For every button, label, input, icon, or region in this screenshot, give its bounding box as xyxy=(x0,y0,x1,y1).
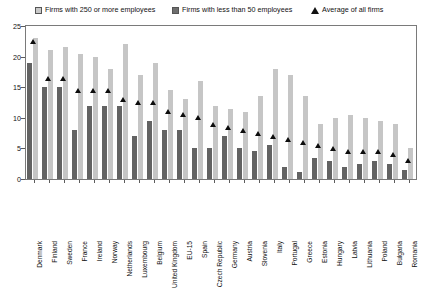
bar-group xyxy=(312,26,326,179)
average-marker-icon xyxy=(30,39,36,44)
average-marker-icon xyxy=(195,115,201,120)
bar-small-firms xyxy=(87,106,92,179)
bar-group xyxy=(267,26,281,179)
x-axis-tick-mark xyxy=(49,180,50,183)
chart-legend: Firms with 250 or more employees Firms w… xyxy=(0,4,425,16)
average-marker-icon xyxy=(330,146,336,151)
bar-group xyxy=(387,26,401,179)
square-light-gray-icon xyxy=(35,7,42,14)
bar-group xyxy=(57,26,71,179)
bar-big-firms xyxy=(78,54,83,179)
x-axis-tick-mark xyxy=(259,180,260,183)
bar-group xyxy=(192,26,206,179)
x-axis-label: Netherlands xyxy=(126,241,133,277)
x-axis-label: Germany xyxy=(231,241,238,268)
bar-small-firms xyxy=(297,172,302,179)
y-axis-tick-label: 25 xyxy=(13,23,21,30)
x-axis-label: Belgium xyxy=(156,241,163,265)
legend-label-big-firms: Firms with 250 or more employees xyxy=(45,6,155,14)
x-axis-label: Luxembourg xyxy=(141,241,148,278)
bar-group xyxy=(162,26,176,179)
x-axis-tick-mark xyxy=(274,180,275,183)
bar-group xyxy=(207,26,221,179)
average-marker-icon xyxy=(165,109,171,114)
x-axis-tick-mark xyxy=(319,180,320,183)
bar-small-firms xyxy=(192,148,197,179)
bar-small-firms xyxy=(372,161,377,179)
bar-big-firms xyxy=(123,44,128,179)
bar-small-firms xyxy=(147,121,152,179)
x-axis-labels: DenmarkFinlandSwedenFranceIrelandNorwayN… xyxy=(25,181,417,243)
bar-group xyxy=(147,26,161,179)
bar-small-firms xyxy=(42,87,47,179)
x-axis-tick-mark xyxy=(34,180,35,183)
bar-group xyxy=(327,26,341,179)
bar-small-firms xyxy=(177,130,182,179)
triangle-up-icon xyxy=(311,7,319,14)
x-axis-tick-mark xyxy=(199,180,200,183)
x-axis-tick-mark xyxy=(244,180,245,183)
x-axis-tick-mark xyxy=(109,180,110,183)
average-marker-icon xyxy=(255,131,261,136)
bar-small-firms xyxy=(102,106,107,179)
x-axis-tick-mark xyxy=(124,180,125,183)
average-marker-icon xyxy=(240,128,246,133)
bar-small-firms xyxy=(267,145,272,179)
average-marker-icon xyxy=(285,137,291,142)
x-axis-tick-mark xyxy=(229,180,230,183)
bar-group xyxy=(132,26,146,179)
bar-big-firms xyxy=(168,90,173,179)
bar-group xyxy=(27,26,41,179)
bar-big-firms xyxy=(48,50,53,179)
bar-group xyxy=(42,26,56,179)
bar-small-firms xyxy=(132,136,137,179)
bar-small-firms xyxy=(402,170,407,179)
bar-big-firms xyxy=(318,124,323,179)
x-axis-label: Poland xyxy=(381,241,388,262)
bar-small-firms xyxy=(327,161,332,179)
x-axis-label: Romania xyxy=(411,241,418,267)
bar-big-firms xyxy=(288,75,293,179)
bar-big-firms xyxy=(228,109,233,179)
bar-small-firms xyxy=(207,148,212,179)
x-axis-label: Lithuania xyxy=(366,241,373,268)
bar-group xyxy=(117,26,131,179)
average-marker-icon xyxy=(270,134,276,139)
x-axis-tick-mark xyxy=(379,180,380,183)
bar-big-firms xyxy=(348,115,353,179)
x-axis-label: Sweden xyxy=(66,241,73,265)
x-axis-tick-mark xyxy=(154,180,155,183)
plot-area xyxy=(25,25,417,180)
bar-big-firms xyxy=(303,96,308,179)
x-axis-tick-mark xyxy=(184,180,185,183)
x-axis-label: Portugal xyxy=(291,241,298,266)
average-marker-icon xyxy=(225,125,231,130)
x-axis-label: Latvia xyxy=(351,241,358,259)
average-marker-icon xyxy=(150,100,156,105)
legend-label-small-firms: Firms with less than 50 employees xyxy=(182,6,292,14)
bar-small-firms xyxy=(237,148,242,179)
average-marker-icon xyxy=(345,149,351,154)
bar-group xyxy=(237,26,251,179)
average-marker-icon xyxy=(75,88,81,93)
bar-big-firms xyxy=(198,81,203,179)
y-axis-tick-label: 15 xyxy=(13,84,21,91)
average-marker-icon xyxy=(105,88,111,93)
bar-group xyxy=(282,26,296,179)
legend-item-average: Average of all firms xyxy=(311,4,383,16)
average-marker-icon xyxy=(120,97,126,102)
x-axis-label: Bulgaria xyxy=(396,241,403,265)
bar-big-firms xyxy=(63,47,68,179)
legend-item-big-firms: Firms with 250 or more employees xyxy=(35,4,155,16)
bar-group xyxy=(72,26,86,179)
bar-group xyxy=(102,26,116,179)
average-marker-icon xyxy=(210,122,216,127)
bar-small-firms xyxy=(282,167,287,179)
bar-big-firms xyxy=(93,57,98,179)
bar-small-firms xyxy=(387,164,392,179)
bar-small-firms xyxy=(357,164,362,179)
bar-small-firms xyxy=(117,106,122,179)
bar-big-firms xyxy=(33,38,38,179)
bar-small-firms xyxy=(342,167,347,179)
x-axis-tick-mark xyxy=(349,180,350,183)
